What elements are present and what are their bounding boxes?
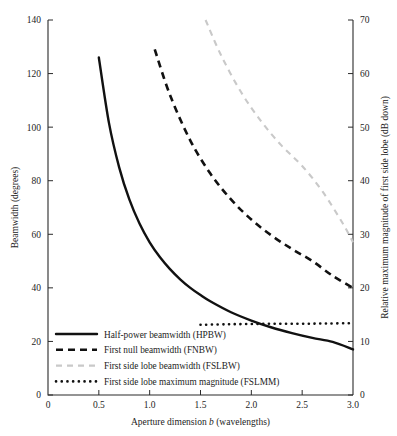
y-axis-tick-label: 60 bbox=[32, 230, 42, 240]
y-axis-tick-label: 140 bbox=[27, 15, 42, 25]
legend-label-1: First null beamwidth (FNBW) bbox=[104, 345, 217, 356]
legend-label-3: First side lobe maximum magnitude (FSLMM… bbox=[104, 377, 279, 388]
x-axis-tick-label: 0.5 bbox=[93, 400, 105, 410]
y-axis-right-tick-label: 10 bbox=[360, 337, 370, 347]
x-axis-tick-label: 2.5 bbox=[296, 400, 308, 410]
y-axis-tick-label: 80 bbox=[32, 176, 42, 186]
x-axis-tick-label: 2.0 bbox=[245, 400, 257, 410]
y-axis-tick-label: 20 bbox=[32, 337, 42, 347]
y-axis-tick-label: 40 bbox=[32, 283, 42, 293]
y-axis-right-tick-label: 50 bbox=[360, 123, 370, 133]
series-line-fslmm bbox=[201, 323, 354, 325]
chart-canvas: 02040608010012014001020304050607000.51.0… bbox=[0, 0, 397, 436]
y-axis-right-tick-label: 40 bbox=[360, 176, 370, 186]
y-axis-tick-label: 0 bbox=[36, 390, 41, 400]
chart-series-layer bbox=[99, 20, 353, 349]
legend-label-0: Half-power beamwidth (HPBW) bbox=[104, 330, 226, 341]
y-axis-right-tick-label: 20 bbox=[360, 283, 370, 293]
series-line-fnbw bbox=[155, 49, 353, 287]
y-axis-tick-label: 120 bbox=[27, 69, 42, 79]
x-axis-tick-label: 1.0 bbox=[144, 400, 156, 410]
chart-legend: Half-power beamwidth (HPBW)First null be… bbox=[56, 330, 279, 388]
beamwidth-chart-figure: 02040608010012014001020304050607000.51.0… bbox=[0, 0, 397, 436]
y-axis-title: Beamwidth (degrees) bbox=[10, 167, 21, 249]
x-axis-tick-label: 0 bbox=[46, 400, 51, 410]
legend-label-2: First side lobe beamwidth (FSLBW) bbox=[104, 361, 240, 372]
y-axis-right-tick-label: 30 bbox=[360, 230, 370, 240]
y-axis-right-tick-label: 60 bbox=[360, 69, 370, 79]
x-axis-tick-label: 1.5 bbox=[195, 400, 207, 410]
y-axis-right-title: Relative maximum magnitude of first side… bbox=[380, 96, 391, 319]
y-axis-right-tick-label: 70 bbox=[360, 15, 370, 25]
y-axis-tick-label: 100 bbox=[27, 123, 42, 133]
series-line-fslbw bbox=[206, 20, 353, 242]
series-line-hpbw bbox=[99, 58, 353, 350]
x-axis-tick-label: 3.0 bbox=[347, 400, 359, 410]
y-axis-right-tick-label: 0 bbox=[360, 390, 365, 400]
x-axis-title: Aperture dimension b (wavelengths) bbox=[131, 417, 270, 428]
